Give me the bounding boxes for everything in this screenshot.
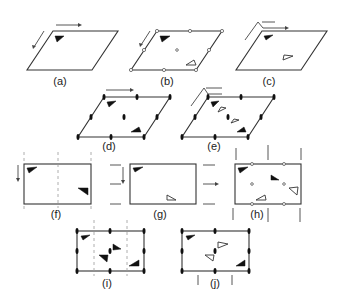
- label-e: (e): [207, 140, 220, 152]
- panel-i: [76, 220, 146, 276]
- panel-c: [236, 22, 327, 70]
- panel-h: [233, 145, 301, 222]
- label-h: (h): [250, 208, 263, 220]
- label-c: (c): [263, 75, 276, 87]
- panel-d: [77, 88, 172, 140]
- label-i: (i): [102, 277, 112, 289]
- panel-f: [16, 152, 91, 212]
- panel-b: [129, 29, 223, 71]
- label-a: (a): [53, 75, 66, 87]
- panel-e: [181, 88, 276, 140]
- label-g: (g): [153, 208, 166, 220]
- label-b: (b): [160, 75, 173, 87]
- label-f: (f): [51, 208, 61, 220]
- panel-a: [27, 23, 118, 70]
- symmetry-diagram: [0, 0, 341, 302]
- panel-g: [110, 164, 219, 204]
- label-j: (j): [210, 277, 220, 289]
- label-d: (d): [102, 140, 115, 152]
